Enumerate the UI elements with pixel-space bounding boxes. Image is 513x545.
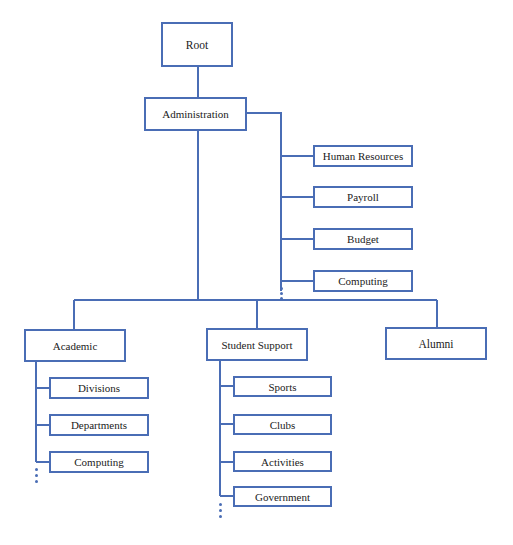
node-divisions: Divisions bbox=[49, 377, 149, 399]
node-label: Academic bbox=[53, 340, 98, 352]
node-label: Clubs bbox=[270, 419, 296, 431]
node-academic: Academic bbox=[24, 329, 126, 362]
node-student-support: Student Support bbox=[206, 328, 308, 361]
node-label: Administration bbox=[162, 108, 229, 120]
node-label: Computing bbox=[338, 275, 388, 287]
node-administration: Administration bbox=[144, 97, 247, 131]
node-label: Computing bbox=[74, 456, 124, 468]
node-academic-computing: Computing bbox=[49, 451, 149, 473]
node-label: Government bbox=[255, 491, 310, 503]
node-label: Human Resources bbox=[323, 150, 403, 162]
node-payroll: Payroll bbox=[313, 186, 413, 208]
node-sports: Sports bbox=[233, 376, 332, 397]
node-label: Sports bbox=[268, 381, 296, 393]
node-clubs: Clubs bbox=[233, 414, 332, 435]
node-departments: Departments bbox=[49, 414, 149, 436]
node-label: Payroll bbox=[347, 191, 379, 203]
node-label: Student Support bbox=[221, 339, 292, 351]
node-budget: Budget bbox=[313, 228, 413, 250]
node-root: Root bbox=[161, 22, 233, 67]
node-admin-computing: Computing bbox=[313, 270, 413, 292]
node-label: Root bbox=[186, 39, 208, 51]
node-human-resources: Human Resources bbox=[313, 145, 413, 167]
node-label: Departments bbox=[71, 419, 127, 431]
node-activities: Activities bbox=[233, 451, 332, 472]
node-alumni: Alumni bbox=[385, 327, 487, 360]
node-label: Divisions bbox=[78, 382, 120, 394]
node-label: Alumni bbox=[418, 338, 453, 350]
node-label: Budget bbox=[347, 233, 379, 245]
node-government: Government bbox=[233, 486, 332, 507]
node-label: Activities bbox=[261, 456, 304, 468]
